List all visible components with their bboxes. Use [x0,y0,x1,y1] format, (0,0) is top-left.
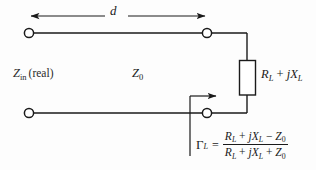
load-impedance-label: RL + jXL [261,68,303,81]
terminal-input-bottom [24,108,33,117]
num-x-subscript: L [259,135,263,144]
num-z-subscript: 0 [282,135,286,144]
transmission-line-figure: d Zin(real) Z0 RL + jXL ΓL = RL + jXL − … [0,0,316,170]
load-reactance-symbol: X [290,67,298,81]
den-x-subscript: L [259,152,263,161]
den-x-symbol: X [252,146,259,158]
fraction-denominator: RL + jXL + Z0 [223,145,288,159]
num-plus: + [239,130,246,142]
length-label-text: d [110,3,117,18]
den-plus2: + [266,146,273,158]
den-r-symbol: R [225,146,232,158]
fraction-numerator: RL + jXL − Z0 [223,130,288,144]
reflection-coefficient-fraction: RL + jXL − Z0 RL + jXL + Z0 [223,130,288,159]
z0-subscript: 0 [139,72,143,82]
gamma-subscript: L [204,143,209,151]
load-resistance-subscript: L [269,73,274,83]
load-resistance-symbol: R [261,67,269,81]
den-plus: + [239,146,246,158]
den-r-subscript: L [232,152,236,161]
num-minus: − [266,130,273,142]
load-resistor-box [240,61,256,96]
num-r-subscript: L [232,135,236,144]
load-reactance-subscript: L [298,73,303,83]
characteristic-impedance-label: Z0 [132,67,143,80]
num-r-symbol: R [225,130,232,142]
bottom-conductor [34,95,247,114]
zin-subscript: in [20,72,27,82]
terminal-output-bottom [202,108,211,117]
load-plus-operator: + [277,67,284,81]
zin-symbol: Z [13,66,20,80]
gamma-symbol: Γ [196,138,204,151]
den-z-subscript: 0 [282,152,286,161]
terminal-output-top [202,28,211,37]
reflection-coefficient-equation: ΓL = RL + jXL − Z0 RL + jXL + Z0 [196,130,288,159]
top-conductor [34,33,247,61]
equals-sign: = [212,139,219,151]
num-z-symbol: Z [275,130,281,142]
z0-symbol: Z [132,66,139,80]
terminal-input-top [24,28,33,37]
zin-qualifier: (real) [29,67,54,79]
input-impedance-label: Zin(real) [13,67,53,80]
length-label-d: d [110,4,117,17]
num-x-symbol: X [252,130,259,142]
den-z-symbol: Z [275,146,281,158]
